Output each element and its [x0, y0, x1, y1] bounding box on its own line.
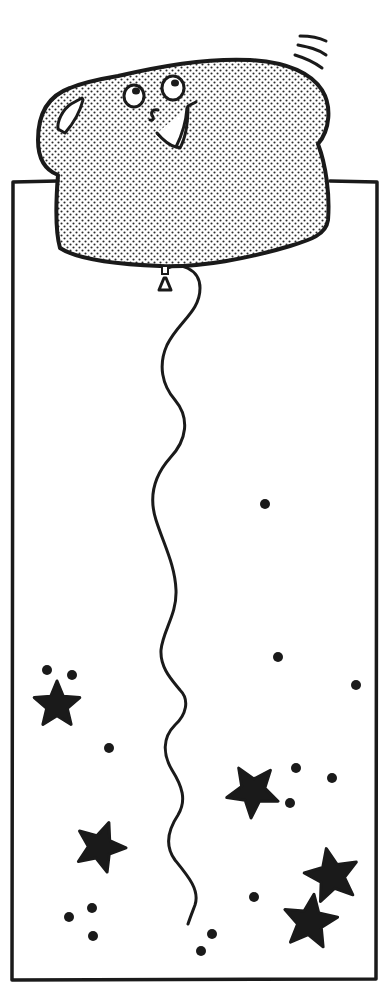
dot-icon — [351, 680, 361, 690]
left-eye-icon — [124, 85, 144, 107]
right-eye-icon — [162, 76, 184, 100]
frame — [12, 181, 377, 980]
star-icon — [227, 768, 278, 818]
dot-icon — [104, 743, 114, 753]
dot-icon — [207, 929, 217, 939]
bread-balloon — [38, 36, 329, 290]
dot-icon — [327, 773, 337, 783]
balloon-string — [153, 266, 200, 924]
dot-icon — [67, 670, 77, 680]
star-icon — [78, 823, 126, 872]
dots — [42, 499, 361, 956]
dot-icon — [196, 946, 206, 956]
star-icon — [34, 681, 80, 724]
motion-lines-icon — [295, 36, 326, 68]
dot-icon — [64, 912, 74, 922]
dot-icon — [42, 665, 52, 675]
star-icon — [304, 849, 356, 902]
dot-icon — [260, 499, 270, 509]
frame-border — [12, 181, 377, 980]
illustration-canvas: Bread-slice balloon floating among stars — [0, 0, 388, 991]
dot-icon — [249, 892, 259, 902]
dot-icon — [87, 903, 97, 913]
dot-icon — [291, 763, 301, 773]
dot-icon — [88, 931, 98, 941]
balloon-knot-icon — [159, 266, 171, 290]
dot-icon — [273, 652, 283, 662]
dot-icon — [285, 798, 295, 808]
star-icon — [285, 894, 338, 947]
